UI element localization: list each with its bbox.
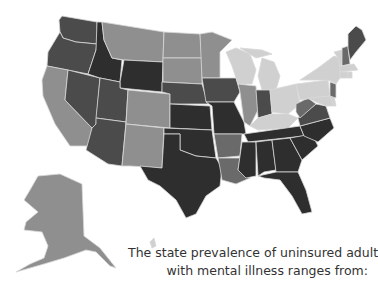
caption-line-2: with mental illness ranges from: bbox=[128, 262, 368, 280]
state-me bbox=[348, 26, 366, 60]
state-ks bbox=[170, 104, 212, 130]
state-ia bbox=[202, 78, 240, 102]
state-ny bbox=[300, 56, 340, 84]
state-nj bbox=[330, 82, 336, 98]
state-co bbox=[126, 90, 170, 128]
state-ri bbox=[348, 72, 352, 78]
state-in bbox=[256, 90, 272, 118]
state-nd bbox=[163, 32, 202, 58]
caption-line-1: The state prevalence of uninsured adults bbox=[128, 244, 368, 262]
state-ct bbox=[340, 72, 348, 78]
state-mi bbox=[258, 58, 280, 90]
state-sd bbox=[163, 58, 202, 84]
state-mt bbox=[102, 22, 164, 62]
state-ak bbox=[16, 174, 116, 272]
state-wy bbox=[120, 60, 163, 92]
map-caption: The state prevalence of uninsured adults… bbox=[128, 244, 368, 280]
state-fl bbox=[258, 172, 312, 214]
state-ar bbox=[214, 134, 242, 158]
state-nm bbox=[122, 124, 164, 168]
